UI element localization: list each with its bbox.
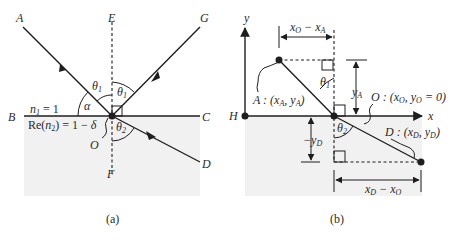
label-d: D <box>201 157 211 171</box>
right-angle-marker-a <box>322 60 333 70</box>
label-d-coord: D : (xD, yD) <box>384 125 440 140</box>
label-theta1-reflected: θ1 <box>117 85 127 100</box>
caption-b: (b) <box>330 212 344 226</box>
label-f: F <box>106 167 115 181</box>
incident-ray <box>23 27 112 116</box>
theta1-incident-arc <box>97 95 112 101</box>
label-c: C <box>202 110 211 124</box>
label-a: A <box>15 11 24 25</box>
label-theta1-incident: θ1 <box>92 79 102 94</box>
a-pointer <box>257 62 279 92</box>
label-x-axis: x <box>427 109 434 123</box>
label-b: B <box>8 110 16 124</box>
label-a-coord: A : (xA, yA) <box>252 93 305 108</box>
label-o-coord: O : (xO, yO = 0) <box>371 90 446 105</box>
label-n2: Re(n2) = 1 − δ <box>28 118 97 133</box>
label-g: G <box>200 11 209 25</box>
point-h <box>242 113 249 120</box>
label-xo-minus-xa: xO − xA <box>289 20 326 35</box>
label-y-axis: y <box>243 11 250 25</box>
point-d <box>418 159 425 166</box>
label-n1: n1 = 1 <box>30 102 59 117</box>
panel-a: A E G B C D O F θ1 θ1 α θ2 n1 = 1 Re(n2)… <box>8 11 211 226</box>
panel-b: y x H xO − xA θ1 yA A : (xA, yA) O : (xO… <box>228 11 446 226</box>
caption-a: (a) <box>106 212 119 226</box>
label-ya: yA <box>351 85 362 100</box>
label-o: O <box>90 138 99 152</box>
label-alpha: α <box>84 99 91 113</box>
reflected-ray <box>112 27 200 116</box>
label-e: E <box>107 11 116 25</box>
label-theta1: θ1 <box>320 75 330 90</box>
figure: A E G B C D O F θ1 θ1 α θ2 n1 = 1 Re(n2)… <box>0 0 457 240</box>
label-h: H <box>228 109 239 123</box>
